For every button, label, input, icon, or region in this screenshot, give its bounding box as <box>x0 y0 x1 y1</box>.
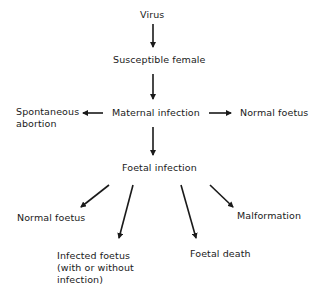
node-susceptible-female: Susceptible female <box>113 54 206 66</box>
node-spontaneous-abortion-line1: Spontaneous <box>16 106 79 118</box>
node-infected-foetus-line3: infection) <box>57 274 103 286</box>
arrow-foetal-to-death <box>181 185 196 238</box>
node-infected-foetus-line2: (with or without <box>57 262 134 274</box>
node-spontaneous-abortion-line2: abortion <box>16 118 57 130</box>
node-normal-foetus-foetal: Normal foetus <box>17 212 85 224</box>
node-malformation: Malformation <box>237 210 301 222</box>
node-maternal-infection: Maternal infection <box>112 107 200 119</box>
arrow-foetal-to-infected <box>119 185 133 238</box>
arrow-foetal-to-normal <box>81 185 109 207</box>
node-virus: Virus <box>140 9 164 21</box>
node-normal-foetus-maternal: Normal foetus <box>240 107 308 119</box>
arrow-foetal-to-malformation <box>210 185 233 207</box>
node-infected-foetus-line1: Infected foetus <box>57 250 130 262</box>
node-foetal-death: Foetal death <box>190 248 251 260</box>
arrows-layer <box>0 0 314 294</box>
node-foetal-infection: Foetal infection <box>122 162 197 174</box>
